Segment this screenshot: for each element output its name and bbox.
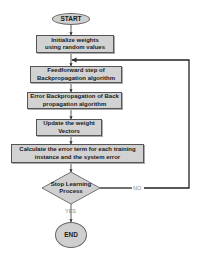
step-label: Update the weight Vectors [39,120,99,135]
start-label: START [60,15,81,23]
end-label: END [64,231,78,239]
step-feedforward: Feedforward step of Backpropagation algo… [30,66,122,83]
step-label: Initialize weights using random values [44,37,106,52]
step-label: Feedforward step of Backpropagation algo… [33,67,119,82]
step-update-weights: Update the weight Vectors [36,119,102,136]
no-label: NO [133,185,141,191]
decision-text: Stop Learning Process [49,181,93,196]
yes-label: YES [65,208,76,214]
step-label: Error Backpropagation of Back propagatio… [30,93,120,108]
start-node: START [52,13,90,25]
step-label: Calculate the error term for each traini… [14,146,142,161]
step-initialize-weights: Initialize weights using random values [36,35,114,53]
decision-label: Stop Learning Process [46,180,96,196]
step-calculate-error: Calculate the error term for each traini… [11,144,144,163]
end-node: END [55,222,87,248]
step-error-backpropagation: Error Backpropagation of Back propagatio… [27,92,122,109]
